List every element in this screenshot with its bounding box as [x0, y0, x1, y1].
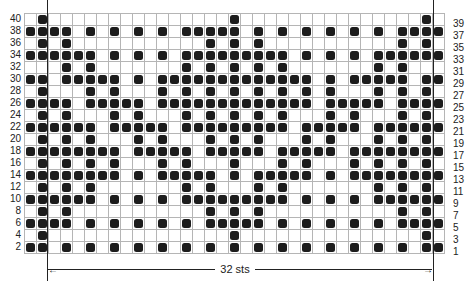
stitch-cell-filled: [421, 194, 433, 206]
stitch-cell-filled: [217, 218, 229, 230]
stitch-cell-empty: [385, 230, 397, 242]
stitch-cell-empty: [97, 206, 109, 218]
stitch-cell-empty: [25, 38, 37, 50]
row-label: 19: [453, 138, 469, 150]
stitch-cell-filled: [265, 122, 277, 134]
stitch-cell-empty: [241, 110, 253, 122]
repeat-arrow-line-left: [48, 269, 216, 270]
stitch-cell-filled: [385, 74, 397, 86]
stitch-cell-filled: [361, 74, 373, 86]
stitch-cell-filled: [25, 26, 37, 38]
stitch-cell-filled: [241, 122, 253, 134]
stitch-cell-empty: [313, 182, 325, 194]
chart-grid: [24, 13, 445, 254]
stitch-cell-filled: [205, 38, 217, 50]
stitch-cell-filled: [349, 26, 361, 38]
stitch-cell-filled: [373, 146, 385, 158]
stitch-cell-filled: [73, 146, 85, 158]
stitch-cell-filled: [349, 242, 361, 254]
stitch-cell-filled: [277, 194, 289, 206]
stitch-cell-empty: [433, 134, 445, 146]
stitch-cell-empty: [361, 14, 373, 26]
stitch-cell-filled: [421, 26, 433, 38]
stitch-cell-filled: [49, 122, 61, 134]
stitch-cell-empty: [361, 110, 373, 122]
stitch-cell-filled: [157, 134, 169, 146]
stitch-cell-filled: [85, 194, 97, 206]
stitch-cell-empty: [133, 86, 145, 98]
stitch-cell-empty: [313, 86, 325, 98]
stitch-cell-filled: [253, 206, 265, 218]
stitch-cell-empty: [289, 158, 301, 170]
stitch-cell-empty: [145, 158, 157, 170]
stitch-cell-empty: [433, 86, 445, 98]
stitch-cell-empty: [145, 206, 157, 218]
stitch-cell-filled: [205, 134, 217, 146]
stitch-cell-empty: [373, 206, 385, 218]
stitch-cell-empty: [313, 74, 325, 86]
stitch-cell-filled: [109, 110, 121, 122]
stitch-cell-filled: [85, 182, 97, 194]
stitch-cell-empty: [121, 86, 133, 98]
stitch-cell-empty: [157, 110, 169, 122]
stitch-cell-empty: [349, 86, 361, 98]
stitch-cell-filled: [373, 158, 385, 170]
stitch-cell-filled: [241, 50, 253, 62]
stitch-cell-filled: [433, 98, 445, 110]
stitch-cell-empty: [433, 110, 445, 122]
stitch-cell-filled: [85, 242, 97, 254]
stitch-cell-filled: [277, 74, 289, 86]
stitch-cell-filled: [277, 86, 289, 98]
stitch-cell-empty: [361, 242, 373, 254]
stitch-cell-filled: [181, 170, 193, 182]
stitch-cell-filled: [229, 194, 241, 206]
stitch-cell-filled: [205, 26, 217, 38]
stitch-cell-filled: [373, 182, 385, 194]
stitch-cell-filled: [193, 50, 205, 62]
stitch-cell-filled: [373, 218, 385, 230]
stitch-cell-filled: [205, 194, 217, 206]
stitch-cell-filled: [61, 122, 73, 134]
stitch-cell-empty: [49, 242, 61, 254]
stitch-cell-empty: [349, 38, 361, 50]
stitch-cell-empty: [121, 170, 133, 182]
stitch-cell-filled: [241, 146, 253, 158]
stitch-cell-empty: [289, 242, 301, 254]
stitch-cell-empty: [145, 38, 157, 50]
stitch-cell-empty: [217, 158, 229, 170]
row-label: 29: [453, 78, 469, 90]
stitch-cell-empty: [133, 230, 145, 242]
stitch-cell-filled: [397, 194, 409, 206]
stitch-cell-empty: [241, 86, 253, 98]
stitch-cell-filled: [205, 98, 217, 110]
stitch-cell-filled: [301, 26, 313, 38]
stitch-cell-filled: [157, 74, 169, 86]
stitch-cell-empty: [337, 194, 349, 206]
stitch-cell-empty: [241, 14, 253, 26]
stitch-cell-empty: [253, 158, 265, 170]
stitch-cell-empty: [121, 242, 133, 254]
stitch-cell-empty: [301, 182, 313, 194]
stitch-cell-empty: [85, 38, 97, 50]
stitch-cell-empty: [349, 62, 361, 74]
stitch-cell-filled: [361, 170, 373, 182]
stitch-cell-empty: [433, 38, 445, 50]
stitch-cell-filled: [253, 218, 265, 230]
stitch-cell-empty: [217, 170, 229, 182]
stitch-cell-filled: [265, 98, 277, 110]
stitch-cell-empty: [181, 206, 193, 218]
stitch-cell-empty: [265, 230, 277, 242]
stitch-cell-empty: [337, 206, 349, 218]
stitch-cell-empty: [73, 14, 85, 26]
stitch-cell-filled: [181, 110, 193, 122]
stitch-cell-empty: [229, 182, 241, 194]
stitch-cell-filled: [85, 74, 97, 86]
stitch-cell-empty: [121, 194, 133, 206]
stitch-cell-empty: [361, 50, 373, 62]
stitch-cell-filled: [277, 122, 289, 134]
stitch-cell-filled: [349, 218, 361, 230]
stitch-cell-empty: [121, 74, 133, 86]
stitch-cell-filled: [229, 122, 241, 134]
stitch-cell-filled: [253, 38, 265, 50]
stitch-cell-filled: [181, 146, 193, 158]
